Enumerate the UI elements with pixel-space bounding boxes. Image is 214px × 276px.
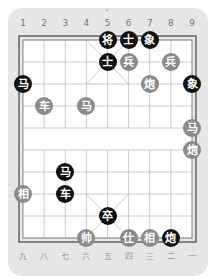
black-piece[interactable]: 马 (14, 75, 32, 93)
column-label-top: 3 (59, 18, 71, 28)
red-piece[interactable]: 相 (14, 185, 32, 203)
column-label-bottom: 七 (59, 250, 71, 261)
red-piece[interactable]: 车 (35, 97, 53, 115)
red-piece[interactable]: 兵 (120, 53, 138, 71)
black-piece[interactable]: 士 (120, 31, 138, 49)
column-label-top: 8 (165, 18, 177, 28)
column-label-bottom: 四 (123, 250, 135, 261)
column-label-bottom: 九 (17, 250, 29, 261)
column-label-bottom: 五 (102, 250, 114, 261)
red-piece[interactable]: 相 (141, 229, 159, 247)
red-piece[interactable]: 马 (183, 119, 201, 137)
black-piece[interactable]: 象 (183, 75, 201, 93)
column-label-bottom: 二 (165, 250, 177, 261)
black-piece[interactable]: 卒 (99, 207, 117, 225)
column-label-top: 7 (144, 18, 156, 28)
black-piece[interactable]: 象 (141, 31, 159, 49)
red-piece[interactable]: 炮 (183, 141, 201, 159)
red-piece[interactable]: 兵 (162, 53, 180, 71)
red-piece[interactable]: 仕 (120, 229, 138, 247)
column-label-top: 4 (80, 18, 92, 28)
column-label-bottom: 三 (144, 250, 156, 261)
black-piece[interactable]: 炮 (162, 229, 180, 247)
column-label-top: 9 (186, 18, 198, 28)
column-label-top: 6 (123, 18, 135, 28)
red-piece[interactable]: 炮 (141, 75, 159, 93)
column-label-bottom: 八 (38, 250, 50, 261)
column-label-bottom: 一 (186, 250, 198, 261)
column-label-top: 5 (102, 18, 114, 28)
black-piece[interactable]: 将 (99, 31, 117, 49)
column-label-top: 1 (17, 18, 29, 28)
column-label-bottom: 六 (80, 250, 92, 261)
black-piece[interactable]: 士 (99, 53, 117, 71)
column-label-top: 2 (38, 18, 50, 28)
